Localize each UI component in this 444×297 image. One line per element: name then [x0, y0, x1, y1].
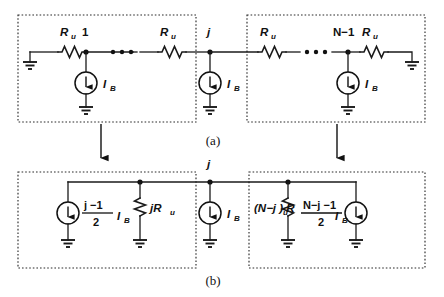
- label-b-left-denominator: 2: [93, 216, 99, 228]
- label-source-a-nodej-sub: B: [234, 84, 240, 93]
- label-source-b-left: I: [117, 210, 121, 222]
- label-resistor-a-left-2-sub: u: [171, 32, 176, 41]
- ellipsis-a-right-dot-2: [314, 50, 318, 54]
- label-node-a-j: j: [205, 26, 211, 38]
- figure-container: R u 1 R u j R u N−1 R u I B I B I B (a): [0, 0, 444, 297]
- current-source-a-node1: [75, 52, 97, 114]
- label-node-b-j: j: [205, 158, 211, 170]
- resistor-a-left-2: [158, 47, 186, 58]
- ground-symbol-a-right: [405, 62, 419, 69]
- label-source-a-node1: I: [103, 78, 107, 90]
- label-source-b-right-expression: N−j −1 2 I B: [301, 199, 348, 228]
- current-source-b-right: [345, 182, 367, 247]
- label-resistor-a-right-1: R: [260, 26, 269, 38]
- current-source-b-center: [199, 182, 221, 247]
- label-resistor-a-left-2: R: [160, 26, 169, 38]
- current-source-a-nodej: [199, 52, 221, 114]
- label-resistor-a-right-2: R: [362, 26, 371, 38]
- label-resistor-b-right-sub: u: [283, 208, 288, 217]
- current-source-b-left: [57, 182, 79, 247]
- label-node-a-N-1: N−1: [333, 26, 355, 38]
- current-source-a-nodeN1: [337, 52, 359, 114]
- label-source-a-nodej: I: [227, 78, 231, 90]
- label-source-b-right-sub: B: [342, 216, 348, 225]
- label-source-b-right: I: [335, 210, 339, 222]
- label-b-left-numerator: j −1: [83, 199, 103, 211]
- resistor-a-right-1: [258, 47, 286, 58]
- ellipsis-a-left-dot-2: [120, 50, 124, 54]
- label-resistor-a-right-2-sub: u: [373, 32, 378, 41]
- resistor-b-left-jRu: [133, 179, 147, 247]
- caption-a: (a): [206, 133, 220, 148]
- circuit-diagram: R u 1 R u j R u N−1 R u I B I B I B (a): [0, 0, 444, 297]
- label-b-right-denominator: 2: [318, 216, 324, 228]
- label-node-a-1: 1: [82, 26, 89, 38]
- label-source-b-left-expression: j −1 2 I B: [82, 199, 130, 228]
- ground-symbol-a-left: [23, 62, 37, 69]
- label-resistor-b-right: (N−j ) R: [254, 202, 295, 214]
- panel-a-left-group-box: [18, 15, 196, 122]
- label-resistor-a-left-1: R: [60, 26, 69, 38]
- label-resistor-a-left-1-sub: u: [71, 32, 76, 41]
- caption-b: (b): [205, 273, 220, 288]
- panel-b-left-group-box: [18, 172, 196, 268]
- label-source-a-node1-sub: B: [110, 84, 116, 93]
- resistor-a-left-1: [58, 47, 86, 58]
- resistor-a-right-2: [360, 47, 388, 58]
- ellipsis-a-left-dot-3: [129, 50, 133, 54]
- wire-a-r4-to-gnd: [388, 52, 412, 62]
- label-b-right-numerator: N−j −1: [303, 199, 336, 211]
- ellipsis-a-left-dot-1: [111, 50, 115, 54]
- label-source-a-nodeN1-sub: B: [372, 84, 378, 93]
- label-source-b-left-sub: B: [124, 216, 130, 225]
- ellipsis-a-right-dot-3: [323, 50, 327, 54]
- label-source-b-center-sub: B: [234, 214, 240, 223]
- label-source-b-center: I: [227, 208, 231, 220]
- label-resistor-b-left: jR: [148, 202, 162, 214]
- label-source-a-nodeN1: I: [365, 78, 369, 90]
- label-resistor-b-left-sub: u: [170, 208, 175, 217]
- ellipsis-a-right-dot-1: [305, 50, 309, 54]
- label-resistor-a-right-1-sub: u: [271, 32, 276, 41]
